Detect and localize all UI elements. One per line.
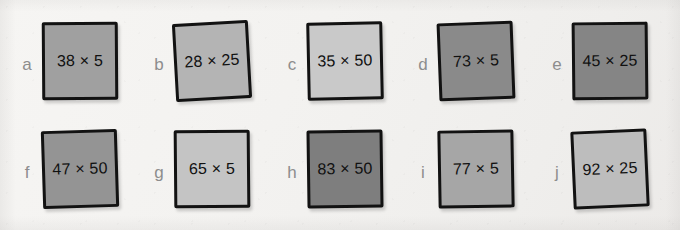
expression-label-i: 77 × 5 [453, 160, 499, 179]
item-letter-h: h [285, 164, 299, 181]
expression-label-d: 73 × 5 [453, 51, 500, 71]
expression-label-h: 83 × 50 [317, 160, 372, 179]
worksheet-page: a 38 × 5 b 28 × 25 c 35 × 50 d 73 × 5 e [0, 0, 680, 230]
item-letter-d: d [416, 56, 430, 73]
expression-box-i: 77 × 5 [437, 129, 514, 208]
expression-box-f: 47 × 50 [41, 129, 119, 209]
expression-box-c: 35 × 50 [306, 21, 384, 101]
item-letter-j: j [550, 164, 564, 181]
expression-label-b: 28 × 25 [184, 50, 240, 71]
expression-label-c: 35 × 50 [317, 51, 373, 70]
item-letter-e: e [550, 56, 564, 73]
exercise-row-1: a 38 × 5 b 28 × 25 c 35 × 50 d 73 × 5 e [0, 14, 680, 114]
item-letter-b: b [152, 56, 166, 73]
item-letter-c: c [285, 56, 299, 73]
exercise-row-2: f 47 × 50 g 65 × 5 h 83 × 50 i 77 × 5 j [0, 122, 680, 222]
item-letter-a: a [20, 56, 34, 73]
expression-box-j: 92 × 25 [570, 128, 649, 209]
expression-box-b: 28 × 25 [172, 20, 252, 102]
item-letter-g: g [152, 164, 166, 181]
item-letter-f: f [20, 164, 34, 181]
expression-label-j: 92 × 25 [582, 159, 638, 179]
expression-box-d: 73 × 5 [437, 21, 516, 102]
expression-box-h: 83 × 50 [306, 129, 383, 208]
expression-box-e: 45 × 25 [572, 22, 649, 101]
expression-label-f: 47 × 50 [52, 159, 108, 179]
item-letter-i: i [416, 164, 430, 181]
expression-box-g: 65 × 5 [174, 130, 251, 209]
expression-box-a: 38 × 5 [42, 22, 119, 101]
expression-label-g: 65 × 5 [189, 160, 235, 178]
expression-label-a: 38 × 5 [57, 52, 103, 70]
expression-label-e: 45 × 25 [582, 52, 637, 71]
